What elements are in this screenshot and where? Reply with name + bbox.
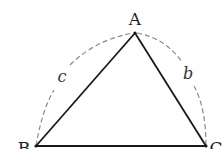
arc-c-upper (70, 33, 133, 65)
vertex-label-c: C (209, 138, 222, 149)
vertex-b-dot (34, 144, 37, 147)
triangle-diagram: A B C c b (0, 0, 224, 149)
vertex-a-dot (133, 31, 136, 34)
side-ab (36, 33, 135, 146)
side-label-c: c (58, 67, 67, 86)
vertex-label-b: B (18, 138, 31, 149)
vertex-label-a: A (128, 9, 142, 29)
side-label-b: b (183, 64, 193, 83)
vertex-c-dot (204, 144, 207, 147)
arc-c-lower (36, 90, 54, 146)
